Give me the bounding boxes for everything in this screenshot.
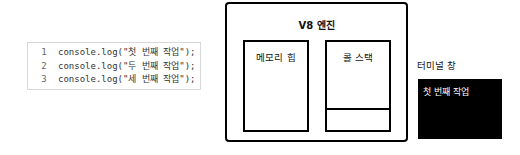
code-text: console.log("두 번째 작업");: [58, 60, 196, 74]
terminal-window: 첫 번째 작업: [418, 79, 502, 139]
call-stack-label: 콜 스택: [327, 50, 389, 64]
code-line: 3 console.log("세 번째 작업");: [28, 73, 200, 87]
memory-heap-box: 메모리 힙: [243, 40, 309, 132]
v8-engine-box: V8 엔진 메모리 힙 콜 스택: [225, 2, 408, 142]
engine-title: V8 엔진: [227, 17, 406, 32]
call-stack-box: 콜 스택: [325, 40, 391, 132]
memory-heap-label: 메모리 힙: [245, 50, 307, 64]
code-text: console.log("첫 번째 작업");: [58, 46, 196, 60]
code-text: console.log("세 번째 작업");: [58, 73, 196, 87]
stack-frame: [327, 108, 389, 130]
code-snippet: 1 console.log("첫 번째 작업"); 2 console.log(…: [27, 42, 201, 90]
terminal-output: 첫 번째 작업: [418, 79, 502, 98]
terminal-label: 터미널 창: [417, 58, 456, 72]
code-line: 1 console.log("첫 번째 작업");: [28, 46, 200, 60]
code-line: 2 console.log("두 번째 작업");: [28, 60, 200, 74]
line-number: 1: [28, 46, 58, 60]
line-number: 2: [28, 60, 58, 74]
line-number: 3: [28, 73, 58, 87]
